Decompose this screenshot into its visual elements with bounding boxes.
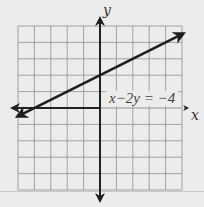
coordinate-plane: x−2y = −4 y x (0, 0, 204, 207)
equation-label: x−2y = −4 (108, 90, 176, 106)
y-axis-label: y (102, 2, 112, 18)
x-axis-label: x (191, 107, 199, 123)
